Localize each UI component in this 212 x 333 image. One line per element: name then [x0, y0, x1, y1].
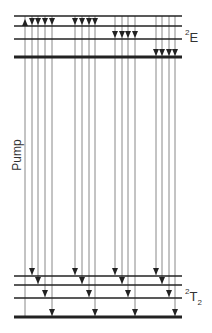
relaxation-arrowhead-icon	[112, 31, 118, 38]
relaxation-arrowhead-icon	[86, 18, 92, 25]
emission-arrowhead-icon	[92, 309, 98, 316]
emission-arrowhead-icon	[29, 268, 35, 275]
relaxation-arrowhead-icon	[119, 31, 125, 38]
pump-label: Pump	[10, 135, 24, 175]
emission-arrowhead-icon	[153, 268, 159, 275]
energy-level-diagram	[0, 0, 212, 333]
emission-arrowhead-icon	[119, 277, 125, 284]
relaxation-arrowhead-icon	[125, 31, 131, 38]
emission-arrowhead-icon	[72, 268, 78, 275]
emission-arrowhead-icon	[125, 290, 131, 297]
emission-arrowhead-icon	[42, 290, 48, 297]
relaxation-arrowhead-icon	[29, 18, 35, 25]
emission-arrowhead-icon	[166, 290, 172, 297]
emission-arrowhead-icon	[86, 290, 92, 297]
relaxation-arrowhead-icon	[172, 49, 178, 56]
relaxation-arrowhead-icon	[35, 18, 41, 25]
relaxation-arrowhead-icon	[166, 49, 172, 56]
emission-arrowhead-icon	[35, 277, 41, 284]
relaxation-arrowhead-icon	[42, 18, 48, 25]
emission-arrowhead-icon	[132, 309, 138, 316]
upper-state-label: 2E	[185, 30, 198, 45]
emission-arrowhead-icon	[79, 277, 85, 284]
relaxation-arrowhead-icon	[79, 18, 85, 25]
pump-arrowhead-icon	[22, 19, 28, 26]
relaxation-arrowhead-icon	[159, 49, 165, 56]
emission-arrowhead-icon	[172, 309, 178, 316]
relaxation-arrowhead-icon	[49, 18, 55, 25]
lower-state-label: 2T2	[185, 289, 202, 304]
emission-arrowhead-icon	[112, 268, 118, 275]
emission-arrowhead-icon	[49, 309, 55, 316]
relaxation-arrowhead-icon	[132, 31, 138, 38]
relaxation-arrowhead-icon	[72, 18, 78, 25]
relaxation-arrowhead-icon	[92, 18, 98, 25]
emission-arrowhead-icon	[159, 277, 165, 284]
relaxation-arrowhead-icon	[153, 49, 159, 56]
